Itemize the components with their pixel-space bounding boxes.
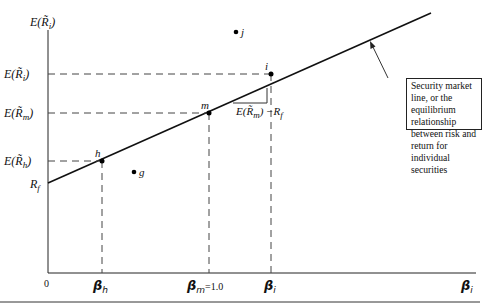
arrow-head-icon xyxy=(370,41,376,49)
y-label-e-rh: E(R̃h) xyxy=(4,155,31,170)
slope-triangle xyxy=(233,88,267,103)
x-label-beta-i: βi xyxy=(264,279,276,295)
y-label-e-rm: E(R̃m) xyxy=(4,107,33,122)
point-h xyxy=(100,159,105,164)
origin-label: 0 xyxy=(44,279,49,289)
x-axis-title: βi xyxy=(461,279,473,295)
sml-annotation-box: Security market line, or the equilibrium… xyxy=(406,78,482,130)
label-i: i xyxy=(265,60,268,72)
label-g: g xyxy=(139,166,145,178)
annotation-arrow xyxy=(372,45,388,78)
label-j: j xyxy=(241,26,244,38)
x-label-beta-m: βm=1.0 xyxy=(187,279,223,295)
label-h: h xyxy=(95,147,101,159)
point-g xyxy=(132,170,137,175)
y-axis-title: E(R̃i) xyxy=(30,16,55,31)
point-j xyxy=(234,30,239,35)
y-label-rf: Rf xyxy=(30,178,40,193)
point-i xyxy=(269,72,274,77)
point-m xyxy=(207,111,212,116)
y-label-e-ri: E(R̃i) xyxy=(4,68,29,83)
slope-label: E(R̃m) −Rf xyxy=(236,106,283,120)
dashed-guides xyxy=(48,74,271,273)
label-m: m xyxy=(201,99,209,111)
x-label-beta-h: βh xyxy=(93,279,108,295)
security-market-line xyxy=(48,13,431,183)
